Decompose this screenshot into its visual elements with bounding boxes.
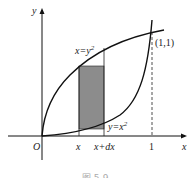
figure-caption: 图 5-9	[82, 173, 109, 178]
x-axis-label: x	[181, 141, 187, 152]
shaded-strip	[79, 66, 104, 129]
x-axis-arrow-icon	[181, 134, 187, 139]
curve-upper-label: x=y2	[74, 44, 95, 56]
tick-one: 1	[149, 141, 154, 152]
origin-label: O	[33, 141, 40, 152]
curve-lower-label: y=x2	[107, 120, 128, 132]
intersection-label: (1,1)	[155, 37, 174, 49]
diagram-canvas: y x O x=y2 y=x2 (1,1) x x+dx 1 图 5-9	[0, 0, 194, 178]
tick-x: x	[75, 141, 81, 152]
tick-x-dx: x+dx	[93, 141, 115, 152]
y-axis-arrow-icon	[40, 8, 45, 14]
y-axis-label: y	[31, 5, 37, 16]
